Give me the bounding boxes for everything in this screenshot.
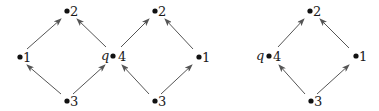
diagram-3-edges <box>278 19 349 94</box>
node-label-2: 2 <box>70 4 78 19</box>
hasse-diagrams: 2 1 3 q 4 2 1 3 2 q 4 1 3 <box>0 0 379 111</box>
node-annotation-q: q <box>256 48 264 63</box>
diagram-2-nodes: 2 1 3 <box>152 4 210 109</box>
node-label-2: 2 <box>313 4 321 19</box>
node-dot <box>64 8 69 13</box>
edge-3-to-1 <box>317 65 349 94</box>
shared-node-4: 4 <box>110 49 126 64</box>
node-dot <box>196 54 201 59</box>
edge-3-to-4 <box>279 65 305 94</box>
edge-1-to-2 <box>320 19 349 48</box>
edge-3-to-4 <box>122 65 149 94</box>
diagram-1-nodes: 2 1 3 q <box>17 4 109 109</box>
edge-4-to-2 <box>278 19 304 47</box>
edge-3-to-1 <box>161 65 192 94</box>
node-dot <box>266 53 271 58</box>
node-dot <box>353 53 358 58</box>
node-dot <box>17 54 22 59</box>
node-dot <box>64 98 69 103</box>
edge-4-to-2 <box>77 19 106 47</box>
node-label-1: 1 <box>202 50 210 65</box>
node-label-4: 4 <box>118 49 126 64</box>
node-dot <box>307 8 312 13</box>
edge-4-to-2 <box>121 19 149 47</box>
node-dot <box>110 53 115 58</box>
node-label-3: 3 <box>314 94 322 109</box>
node-dot <box>152 98 157 103</box>
edge-1-to-2 <box>27 19 61 49</box>
node-label-3: 3 <box>70 94 78 109</box>
node-label-3: 3 <box>158 94 166 109</box>
node-label-1: 1 <box>23 50 31 65</box>
edge-3-to-1 <box>27 65 61 94</box>
diagram-3-nodes: 2 q 4 1 3 <box>256 4 367 109</box>
node-label-4: 4 <box>273 49 281 64</box>
edge-1-to-2 <box>165 19 193 49</box>
node-annotation-q: q <box>101 48 109 63</box>
diagram-2-edges <box>121 19 193 94</box>
diagram-1-edges <box>27 19 106 94</box>
node-label-1: 1 <box>359 49 367 64</box>
node-label-2: 2 <box>158 4 166 19</box>
node-dot <box>308 98 313 103</box>
node-dot <box>152 8 157 13</box>
edge-3-to-4 <box>73 65 105 94</box>
